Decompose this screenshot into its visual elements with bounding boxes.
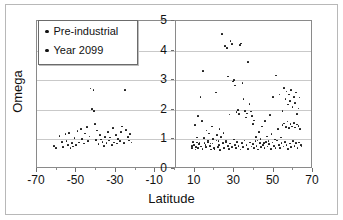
data-point	[240, 149, 242, 151]
data-point	[247, 61, 249, 63]
data-point	[292, 140, 294, 142]
chart-legend: Pre-industrial Year 2099	[38, 20, 138, 65]
data-point	[231, 146, 233, 148]
data-point	[289, 143, 291, 145]
data-point	[229, 114, 231, 116]
data-point	[241, 142, 243, 144]
x-tick-minor-mark	[56, 168, 57, 170]
data-point	[119, 140, 121, 142]
data-point	[261, 126, 263, 128]
data-point	[252, 123, 254, 125]
data-point	[77, 130, 79, 132]
data-point	[264, 147, 266, 149]
data-point	[66, 140, 68, 142]
x-tick-minor-mark	[95, 168, 96, 170]
data-point	[290, 123, 292, 125]
data-point	[253, 120, 255, 122]
scatter-chart-figure: 012345 -70-50-30-1010305070 Omega Latitu…	[0, 0, 343, 220]
gridline	[37, 80, 311, 81]
data-point	[83, 143, 85, 145]
data-point	[191, 147, 193, 149]
y-axis-line	[175, 21, 176, 167]
data-point	[207, 141, 209, 143]
data-point	[226, 47, 228, 49]
data-point	[238, 145, 240, 147]
data-point	[216, 134, 218, 136]
data-point	[219, 149, 221, 151]
data-point	[90, 88, 92, 90]
data-point	[251, 115, 253, 117]
x-tick-mark	[154, 168, 155, 172]
data-point	[296, 113, 298, 115]
x-tick-minor-mark	[213, 168, 214, 170]
data-point	[237, 109, 239, 111]
data-point	[202, 148, 204, 150]
data-point	[70, 147, 72, 149]
x-tick-minor-mark	[135, 168, 136, 170]
data-point	[128, 140, 130, 142]
data-point	[297, 147, 299, 149]
data-point	[62, 146, 64, 148]
data-point	[120, 131, 122, 133]
data-point	[230, 40, 232, 42]
gridline	[37, 110, 311, 111]
data-point	[272, 142, 274, 144]
data-point	[222, 142, 224, 144]
data-point	[208, 133, 210, 135]
data-point	[103, 145, 105, 147]
data-point	[252, 143, 254, 145]
data-point	[282, 124, 284, 126]
data-point	[278, 144, 280, 146]
data-point	[221, 33, 223, 35]
data-point	[210, 149, 212, 151]
data-point	[217, 146, 219, 148]
data-point	[235, 147, 237, 149]
x-tick-label: 10	[177, 174, 211, 186]
x-tick-label: 30	[216, 174, 250, 186]
data-point	[98, 143, 100, 145]
data-point	[269, 114, 271, 116]
x-tick-mark	[36, 168, 37, 172]
data-point	[233, 79, 235, 81]
data-point	[218, 140, 220, 142]
data-point	[239, 44, 241, 46]
data-point	[211, 126, 213, 128]
data-point	[123, 142, 125, 144]
data-point	[102, 141, 104, 143]
data-point	[233, 139, 235, 141]
data-point	[253, 147, 255, 149]
data-point	[275, 75, 277, 77]
data-point	[268, 140, 270, 142]
x-tick-label: -30	[98, 174, 132, 186]
data-point	[212, 143, 214, 145]
data-point	[202, 70, 204, 72]
data-point	[121, 126, 123, 128]
data-point	[293, 122, 295, 124]
data-point	[294, 145, 296, 147]
data-point	[286, 91, 288, 93]
data-point	[108, 140, 110, 142]
data-point	[298, 142, 300, 144]
y-tick-label: 2	[151, 103, 167, 115]
data-point	[193, 144, 195, 146]
data-point	[236, 141, 238, 143]
data-point	[112, 127, 114, 129]
data-point	[215, 92, 217, 94]
data-point	[288, 127, 290, 129]
x-tick-minor-mark	[292, 168, 293, 170]
data-point	[275, 147, 277, 149]
data-point	[250, 111, 252, 113]
data-point	[67, 144, 69, 146]
y-tick-mark	[171, 79, 174, 80]
data-point	[216, 140, 218, 142]
data-point	[197, 115, 199, 117]
data-point	[194, 124, 196, 126]
x-tick-mark	[273, 168, 274, 172]
data-point	[246, 113, 248, 115]
data-point	[106, 142, 108, 144]
x-axis-label: Latitude	[0, 191, 343, 206]
data-point	[265, 141, 267, 143]
x-tick-label: -10	[137, 174, 171, 186]
y-tick-mark	[171, 20, 174, 21]
data-point	[294, 102, 296, 104]
